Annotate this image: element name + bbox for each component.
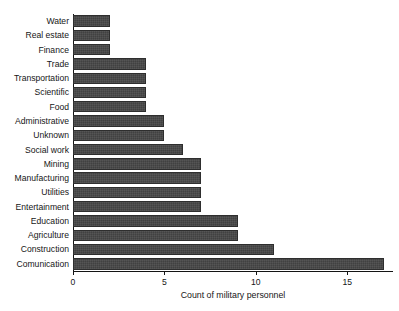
bar-row [73, 114, 393, 128]
category-label: Real estate [0, 28, 69, 42]
category-label: Unknown [0, 128, 69, 142]
bar-row [73, 71, 393, 85]
bar-row [73, 228, 393, 242]
category-label: Comunication [0, 257, 69, 271]
category-label: Entertainment [0, 200, 69, 214]
category-label: Transportation [0, 71, 69, 85]
bar [73, 58, 146, 69]
bar [73, 115, 164, 126]
bar [73, 172, 201, 183]
x-tick-label: 5 [162, 277, 167, 287]
category-label: Education [0, 214, 69, 228]
plot-area [73, 14, 393, 271]
x-axis-line [73, 271, 393, 272]
bar [73, 87, 146, 98]
bar-row [73, 43, 393, 57]
bar [73, 230, 238, 241]
category-label: Utilities [0, 185, 69, 199]
bar-row [73, 214, 393, 228]
x-tick-mark [256, 271, 257, 275]
bar [73, 30, 110, 41]
bar-row [73, 57, 393, 71]
bar-row [73, 143, 393, 157]
bar-row [73, 171, 393, 185]
x-tick-mark [347, 271, 348, 275]
bar [73, 101, 146, 112]
bar-row [73, 128, 393, 142]
category-label: Finance [0, 43, 69, 57]
category-label: Water [0, 14, 69, 28]
bar [73, 73, 146, 84]
bar-row [73, 185, 393, 199]
category-label: Mining [0, 157, 69, 171]
category-label: Trade [0, 57, 69, 71]
x-tick-mark [164, 271, 165, 275]
bar [73, 201, 201, 212]
bar [73, 144, 183, 155]
bar [73, 15, 110, 26]
bar-row [73, 100, 393, 114]
category-label: Agriculture [0, 228, 69, 242]
x-tick-mark [73, 271, 74, 275]
bar [73, 244, 274, 255]
bar-row [73, 14, 393, 28]
bar-chart: WaterReal estateFinanceTradeTransportati… [0, 0, 399, 311]
category-label: Social work [0, 143, 69, 157]
bar [73, 130, 164, 141]
bar [73, 44, 110, 55]
bar-row [73, 242, 393, 256]
x-tick-label: 15 [343, 277, 353, 287]
bar-row [73, 257, 393, 271]
bar [73, 158, 201, 169]
x-tick-label: 0 [71, 277, 76, 287]
bar-row [73, 85, 393, 99]
bar-row [73, 157, 393, 171]
category-label: Scientific [0, 85, 69, 99]
category-label: Administrative [0, 114, 69, 128]
bar-row [73, 28, 393, 42]
category-label: Construction [0, 242, 69, 256]
x-tick-label: 10 [251, 277, 261, 287]
bar [73, 258, 384, 269]
category-label: Food [0, 100, 69, 114]
bar-row [73, 200, 393, 214]
category-label: Manufacturing [0, 171, 69, 185]
bar [73, 215, 238, 226]
bar [73, 187, 201, 198]
x-axis-title: Count of military personnel [73, 290, 393, 300]
